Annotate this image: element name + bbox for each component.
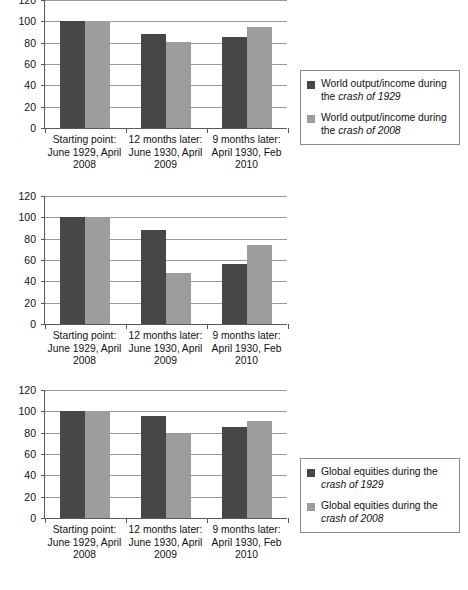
legend-swatch-icon — [307, 81, 315, 89]
x-axis-label: Starting point:June 1929, April2008 — [44, 524, 125, 562]
x-tickmark — [288, 128, 289, 133]
y-tick-label: 0 — [30, 513, 36, 524]
bar-groups — [45, 196, 287, 324]
x-axis-label-line: 12 months later: — [126, 330, 205, 343]
bar[interactable] — [141, 416, 166, 518]
bar-group — [206, 390, 287, 518]
legend-world-output: World output/income during the crash of … — [300, 70, 460, 145]
x-axis-labels: Starting point:June 1929, April200812 mo… — [44, 134, 287, 172]
bar[interactable] — [60, 411, 85, 518]
x-tickmark — [207, 324, 208, 329]
x-axis-labels: Starting point:June 1929, April200812 mo… — [44, 330, 287, 368]
plot-area-world-output: 020406080100120Starting point:June 1929,… — [0, 0, 292, 150]
legend-label: World output/income during the crash of … — [321, 112, 452, 137]
y-tick-label: 60 — [24, 255, 36, 266]
x-axis-label-line: Starting point: — [45, 330, 124, 343]
x-axis-label: 9 months later:April 1930, Feb2010 — [206, 134, 287, 172]
gridlines-and-bars — [44, 390, 287, 518]
x-axis-label-line: Starting point: — [45, 134, 124, 147]
bar[interactable] — [166, 273, 191, 324]
x-axis-label-line: 2010 — [207, 549, 286, 562]
bar[interactable] — [222, 37, 247, 128]
legend-label: World output/income during the crash of … — [321, 78, 452, 103]
bar[interactable] — [247, 27, 272, 128]
bar[interactable] — [247, 245, 272, 324]
plot-area-global-equities: 020406080100120Starting point:June 1929,… — [0, 196, 292, 346]
bar-group — [45, 196, 126, 324]
bar[interactable] — [85, 217, 110, 324]
x-axis-label-line: 2008 — [45, 355, 124, 368]
bar-group — [206, 0, 287, 128]
x-axis-label: 9 months later:April 1930, Feb2010 — [206, 524, 287, 562]
y-tick-label: 120 — [18, 191, 36, 202]
bar[interactable] — [141, 34, 166, 128]
y-tick-label: 0 — [30, 123, 36, 134]
x-axis-label-line: June 1930, April — [126, 147, 205, 160]
axis-baseline — [45, 324, 287, 325]
gridlines-and-bars — [44, 196, 287, 324]
x-tickmark — [45, 518, 46, 523]
bar[interactable] — [141, 230, 166, 324]
y-tick-label: 40 — [24, 80, 36, 91]
plot-area-global-trade: 020406080100120Starting point:June 1929,… — [0, 390, 292, 540]
chart-panel-global-equities: 020406080100120Starting point:June 1929,… — [0, 196, 468, 390]
x-axis-label-line: 9 months later: — [207, 330, 286, 343]
x-axis-label-line: 12 months later: — [126, 524, 205, 537]
x-axis-label-line: 9 months later: — [207, 524, 286, 537]
x-tickmark — [207, 518, 208, 523]
bar[interactable] — [85, 411, 110, 518]
legend-entry[interactable]: World output/income during the crash of … — [307, 112, 452, 137]
chart-panel-global-trade: 020406080100120Starting point:June 1929,… — [0, 390, 468, 590]
bar-group — [126, 390, 207, 518]
bar-group — [126, 196, 207, 324]
y-tick-label: 80 — [24, 37, 36, 48]
x-axis-label: Starting point:June 1929, April2008 — [44, 330, 125, 368]
legend-swatch-icon — [307, 115, 315, 123]
x-axis-label-line: 2010 — [207, 159, 286, 172]
bar[interactable] — [60, 21, 85, 128]
x-tickmark — [126, 128, 127, 133]
x-axis-label: 9 months later:April 1930, Feb2010 — [206, 330, 287, 368]
y-tick-label: 20 — [24, 491, 36, 502]
bar[interactable] — [222, 264, 247, 324]
y-tick-label: 20 — [24, 297, 36, 308]
bar-groups — [45, 390, 287, 518]
y-tick-label: 120 — [18, 385, 36, 396]
gridlines-and-bars — [44, 0, 287, 128]
x-tickmark — [45, 324, 46, 329]
x-axis-label-line: 2009 — [126, 549, 205, 562]
bar[interactable] — [166, 42, 191, 128]
x-tickmark — [126, 324, 127, 329]
x-axis-label-line: 9 months later: — [207, 134, 286, 147]
y-tick-label: 80 — [24, 233, 36, 244]
x-axis-label-line: June 1929, April — [45, 343, 124, 356]
x-axis-label-line: 2008 — [45, 549, 124, 562]
bar[interactable] — [222, 427, 247, 518]
y-tick-label: 80 — [24, 427, 36, 438]
bar[interactable] — [247, 421, 272, 518]
bar-group — [206, 196, 287, 324]
x-axis-label-line: 12 months later: — [126, 134, 205, 147]
x-tickmark — [207, 128, 208, 133]
bar-group — [126, 0, 207, 128]
x-axis-label: 12 months later:June 1930, April2009 — [125, 134, 206, 172]
x-axis-label: 12 months later:June 1930, April2009 — [125, 330, 206, 368]
x-tickmark — [126, 518, 127, 523]
y-tick-label: 60 — [24, 59, 36, 70]
y-tick-label: 100 — [18, 16, 36, 27]
x-axis-label-line: April 1930, Feb — [207, 343, 286, 356]
x-tickmark — [288, 518, 289, 523]
axis-baseline — [45, 128, 287, 129]
legend-entry[interactable]: World output/income during the crash of … — [307, 78, 452, 103]
y-tick-label: 60 — [24, 449, 36, 460]
bar[interactable] — [166, 434, 191, 518]
x-axis-label: 12 months later:June 1930, April2009 — [125, 524, 206, 562]
y-tick-label: 100 — [18, 406, 36, 417]
x-axis-label-line: June 1930, April — [126, 343, 205, 356]
y-tick-label: 120 — [18, 0, 36, 5]
x-axis-label-line: April 1930, Feb — [207, 537, 286, 550]
bar[interactable] — [85, 21, 110, 128]
x-axis-label-line: April 1930, Feb — [207, 147, 286, 160]
bar[interactable] — [60, 217, 85, 324]
legend-label-emphasis: crash of 2008 — [338, 125, 400, 136]
